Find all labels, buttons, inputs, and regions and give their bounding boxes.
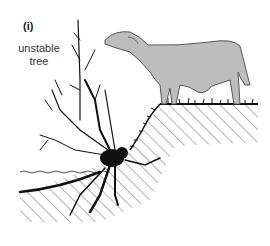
cow [105, 32, 250, 104]
illustration [0, 0, 270, 246]
